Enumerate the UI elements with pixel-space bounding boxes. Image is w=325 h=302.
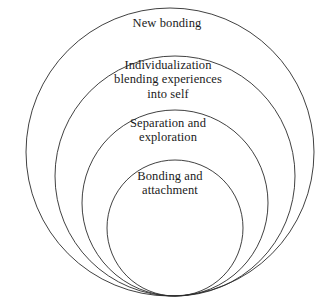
nested-circles-diagram: New bonding Individualization blending e… xyxy=(0,0,325,302)
circles-graphic xyxy=(0,0,325,302)
circle-individualization xyxy=(55,56,295,296)
circle-new-bonding xyxy=(26,8,314,296)
circle-bonding-attachment xyxy=(107,160,243,296)
circle-separation xyxy=(82,110,268,296)
